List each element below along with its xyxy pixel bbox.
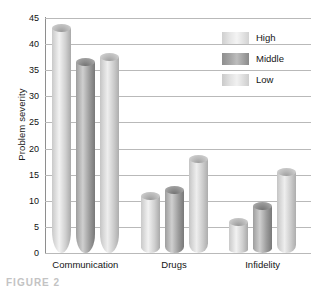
y-axis-tick-label: 40: [0, 39, 39, 49]
y-axis-tick-label: 25: [0, 117, 39, 127]
bar-body: [277, 172, 296, 253]
figure-bar-chart: Problem severity 051015202530354045 Comm…: [0, 0, 317, 286]
bar-body: [165, 190, 184, 253]
bar-middle-infidelity: [253, 206, 272, 253]
legend-label-middle: Middle: [256, 53, 284, 64]
bar-low-infidelity: [277, 172, 296, 253]
legend-label-low: Low: [256, 74, 273, 85]
bar-body: [141, 196, 160, 253]
legend-swatch-low: [222, 74, 249, 86]
bar-low-drugs: [189, 159, 208, 253]
y-axis-tick-label: 15: [0, 170, 39, 180]
bar-body: [100, 57, 119, 253]
bar-middle-drugs: [165, 190, 184, 253]
bar-body: [52, 28, 71, 253]
bar-top-ellipse: [189, 155, 208, 163]
x-axis-label-drugs: Drugs: [161, 259, 186, 270]
y-axis-tick-label: 10: [0, 196, 39, 206]
legend-item-high[interactable]: High: [222, 29, 310, 46]
y-axis-tick-label: 0: [0, 248, 39, 258]
bar-low-communication: [100, 57, 119, 253]
legend-swatch-middle: [222, 53, 249, 65]
legend-label-high: High: [256, 32, 276, 43]
bar-top-ellipse: [229, 218, 248, 226]
bar-body: [253, 206, 272, 253]
bar-high-infidelity: [229, 222, 248, 253]
bar-middle-communication: [76, 62, 95, 253]
bar-top-ellipse: [141, 192, 160, 200]
y-axis-tick-label: 20: [0, 144, 39, 154]
y-axis-tick-label: 35: [0, 65, 39, 75]
y-axis-tick-label: 45: [0, 13, 39, 23]
bar-body: [189, 159, 208, 253]
figure-caption: FIGURE 2: [6, 277, 60, 286]
y-axis-tick-label: 5: [0, 222, 39, 232]
y-axis-tick-label: 30: [0, 91, 39, 101]
bar-body: [76, 62, 95, 253]
legend-swatch-high: [222, 32, 249, 44]
bar-high-communication: [52, 28, 71, 253]
bar-body: [229, 222, 248, 253]
legend-item-middle[interactable]: Middle: [222, 50, 310, 67]
legend-item-low[interactable]: Low: [222, 71, 310, 88]
bar-high-drugs: [141, 196, 160, 253]
chart-legend: HighMiddleLow: [222, 29, 310, 92]
gridline: [45, 253, 311, 254]
x-axis-label-infidelity: Infidelity: [245, 259, 280, 270]
x-axis-label-communication: Communication: [52, 259, 118, 270]
gridline: [45, 18, 311, 19]
